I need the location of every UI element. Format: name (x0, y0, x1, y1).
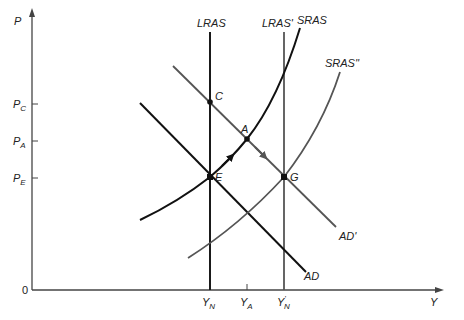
x-axis-label: Y (430, 296, 438, 308)
svg-text:G: G (290, 171, 299, 183)
svg-text:A: A (240, 123, 248, 135)
y-axis-arrow-icon (29, 8, 35, 17)
sras-double-prime-label: SRAS'' (325, 57, 360, 69)
tick-label-pa: PA (13, 135, 26, 150)
sras-label: SRAS (297, 14, 328, 26)
tick-label-pe: PE (13, 172, 26, 187)
lras-label: LRAS (197, 17, 226, 29)
tick-label-pc: PC (13, 98, 26, 113)
sras-curve (140, 28, 300, 220)
svg-text:E: E (215, 171, 223, 183)
ad-as-diagram: P Y 0 PC PA PE YN YA Y'N LRAS LRAS' AD A… (0, 0, 464, 320)
point-a: A (240, 123, 250, 142)
ad-prime-curve (173, 66, 336, 227)
svg-text:C: C (215, 90, 223, 102)
ad-curve (140, 103, 306, 272)
arrow-along-ad-prime-icon (255, 147, 266, 158)
x-axis-arrow-icon (435, 287, 444, 293)
tick-label-yn: YN (202, 296, 215, 311)
origin-label: 0 (22, 284, 28, 296)
ad-prime-label: AD' (338, 230, 357, 242)
y-axis-label: P (14, 15, 22, 27)
lras-prime-label: LRAS' (262, 17, 294, 29)
tick-label-ya: YA (240, 296, 253, 311)
arrow-along-sras-icon (222, 155, 233, 166)
tick-label-yn-prime: Y'N (277, 294, 290, 311)
ad-label: AD (303, 270, 319, 282)
